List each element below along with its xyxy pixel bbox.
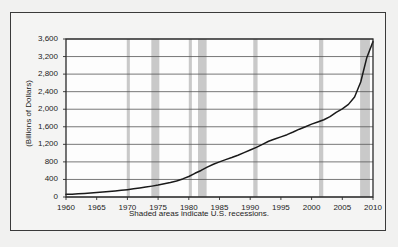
recession-band [189,39,192,197]
chart-plot-svg [11,13,387,232]
y-tick-label: 0 [24,192,58,201]
y-tick-label: 1,600 [24,122,58,131]
recession-band [198,39,207,197]
chart-outer-frame: (Billions of Dollars) 04008001,2001,6002… [10,12,386,231]
y-tick-label: 2,000 [24,104,58,113]
chart-figure: (Billions of Dollars) 04008001,2001,6002… [0,0,398,247]
y-tick-label: 3,200 [24,52,58,61]
y-tick-label: 800 [24,157,58,166]
y-tick-label: 400 [24,174,58,183]
recession-band [151,39,159,197]
recession-band [319,39,323,197]
y-tick-label: 2,800 [24,69,58,78]
y-tick-label: 2,400 [24,87,58,96]
chart-caption: Shaded areas indicate U.S. recessions. [0,209,398,218]
y-tick-label: 3,600 [24,34,58,43]
y-tick-label: 1,200 [24,139,58,148]
recession-band [127,39,130,197]
recession-band [253,39,257,197]
